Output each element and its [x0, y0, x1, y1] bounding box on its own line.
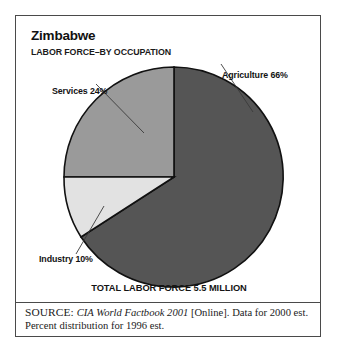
leader-line-industry — [76, 206, 104, 254]
pie-label-industry: Industry 10% — [39, 254, 93, 264]
page-title: Zimbabwe — [31, 29, 281, 43]
chart-page: Zimbabwe LABOR FORCE–BY OCCUPATION Agric… — [0, 0, 337, 353]
pie-slice-agriculture — [81, 67, 283, 287]
pie-slice-industry — [64, 177, 174, 237]
total-labor-force-caption: TOTAL LABOR FORCE 5.5 MILLION — [16, 283, 322, 293]
source-label: SOURCE: — [25, 306, 77, 318]
pie-label-services: Services 24% — [52, 86, 107, 96]
source-divider — [16, 302, 320, 303]
source-work-title: CIA World Factbook 2001 — [77, 307, 189, 318]
source-note: SOURCE: CIA World Factbook 2001 [Online]… — [25, 306, 315, 332]
pie-label-agriculture: Agriculture 66% — [222, 70, 288, 80]
chart-subtitle: LABOR FORCE–BY OCCUPATION — [31, 46, 264, 57]
chart-frame: Zimbabwe LABOR FORCE–BY OCCUPATION Agric… — [15, 15, 321, 337]
pie-slice-services — [64, 67, 174, 177]
chart-heading: Zimbabwe LABOR FORCE–BY OCCUPATION — [31, 29, 281, 57]
